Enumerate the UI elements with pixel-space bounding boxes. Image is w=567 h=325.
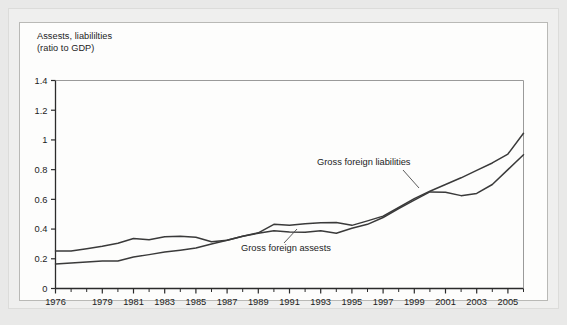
x-axis-tick-label: 2003 xyxy=(466,297,487,307)
y-axis-tick-label: 1.2 xyxy=(35,106,48,116)
series-annotation-label: Gross foreign liabilities xyxy=(317,157,411,167)
y-axis-tick-label: 1 xyxy=(42,135,47,145)
x-axis-tick-label: 2005 xyxy=(498,297,519,307)
x-axis-tick-label: 1987 xyxy=(217,297,238,307)
x-axis-tick-label: 2001 xyxy=(435,297,456,307)
figure-root: Assests, liabililties(ratio to GDP) 00.2… xyxy=(0,0,567,325)
y-axis-tick-label: 0.2 xyxy=(35,254,48,264)
x-axis-tick-label: 1976 xyxy=(45,297,66,307)
x-axis-tick-label: 1999 xyxy=(404,297,425,307)
line-chart-plot: 00.20.40.60.811.21.419761979198119831985… xyxy=(0,0,567,325)
x-axis-tick-label: 1985 xyxy=(186,297,207,307)
x-axis-tick-label: 1991 xyxy=(279,297,300,307)
y-axis-tick-label: 1.4 xyxy=(35,76,48,86)
x-axis-tick-label: 1997 xyxy=(373,297,394,307)
series-annotation-label: Gross foreign assests xyxy=(241,243,331,253)
y-axis-tick-label: 0.8 xyxy=(35,165,48,175)
annotation-leader-line xyxy=(403,170,419,188)
x-axis-tick-label: 1983 xyxy=(154,297,175,307)
annotation-layer: Gross foreign liabilitiesGross foreign a… xyxy=(241,157,419,253)
axes-layer: 00.20.40.60.811.21.419761979198119831985… xyxy=(35,76,524,307)
y-axis-tick-label: 0 xyxy=(42,284,47,294)
x-axis-tick-label: 1989 xyxy=(248,297,269,307)
y-axis-tick-label: 0.6 xyxy=(35,195,48,205)
x-axis-tick-label: 1995 xyxy=(342,297,363,307)
data-series-line xyxy=(56,133,524,251)
x-axis-tick-label: 1979 xyxy=(92,297,113,307)
y-axis-tick-label: 0.4 xyxy=(35,224,48,234)
x-axis-tick-label: 1993 xyxy=(310,297,331,307)
x-axis-tick-label: 1981 xyxy=(123,297,144,307)
